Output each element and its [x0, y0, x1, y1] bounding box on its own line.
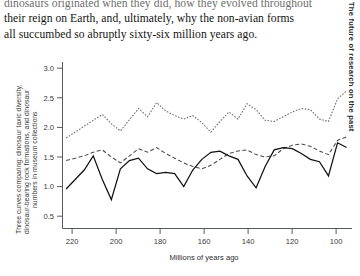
x-axis-title: Millions of years ago: [169, 253, 238, 262]
y-tick-label: 1.0: [43, 182, 54, 191]
y-axis-tick-labels: 0.5 1.0 1.5 2.0 2.5 3.0: [43, 64, 54, 221]
x-tick-label: 180: [154, 237, 167, 246]
y-axis-label-line: Three curves comparing: dinosaur taxic d…: [15, 85, 23, 234]
y-tick-label: 2.5: [43, 94, 54, 103]
x-tick-label: 140: [242, 237, 255, 246]
paragraph-line: dinosaurs originated when they did, how …: [4, 0, 316, 11]
x-tick-label: 220: [66, 237, 79, 246]
series-group: [66, 91, 346, 200]
y-tick-label: 3.0: [43, 64, 54, 73]
line-chart: Three curves comparing: dinosaur taxic d…: [0, 48, 360, 276]
y-axis-ticks: [57, 68, 63, 216]
y-axis-label: Three curves comparing: dinosaur taxic d…: [15, 85, 38, 234]
figure-dinosaur-curves: Three curves comparing: dinosaur taxic d…: [0, 48, 360, 276]
paragraph-line: their reign on Earth, and, ultimately, w…: [4, 11, 316, 26]
series-rock-formations: [66, 91, 346, 138]
series-taxic-diversity: [66, 143, 346, 200]
x-axis-ticks: [72, 229, 336, 235]
y-tick-label: 2.0: [43, 123, 54, 132]
x-tick-label: 200: [110, 237, 123, 246]
y-tick-label: 0.5: [43, 212, 54, 221]
y-tick-label: 1.5: [43, 153, 54, 162]
x-axis-tick-labels: 220 200 180 160 140 120 100: [66, 237, 343, 246]
paragraph-line: all succumbed so abruptly sixty-six mill…: [4, 27, 316, 42]
x-tick-label: 120: [286, 237, 299, 246]
series-museum-collections: [66, 137, 346, 169]
y-axis-label-line: dinosaur-bearing rock formations, and di…: [23, 89, 31, 234]
x-tick-label: 160: [198, 237, 211, 246]
y-axis-label-line: numbers in museum collections: [31, 111, 38, 208]
x-tick-label: 100: [330, 237, 343, 246]
body-paragraph: dinosaurs originated when they did, how …: [4, 0, 316, 42]
